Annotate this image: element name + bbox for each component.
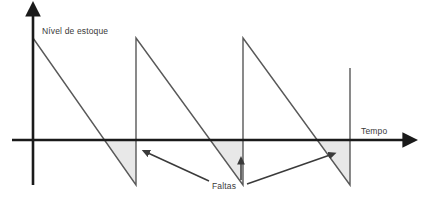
x-axis-label: Tempo <box>361 126 387 136</box>
arrow-to-shortage-3 <box>247 155 330 184</box>
y-axis-label: Nível de estoque <box>42 26 108 36</box>
inventory-sawtooth-diagram: Nível de estoque Tempo Faltas <box>0 0 426 200</box>
shortage-label: Faltas <box>212 181 236 191</box>
sawtooth-path <box>33 38 350 185</box>
arrow-to-shortage-1 <box>148 153 209 181</box>
chart-canvas: Nível de estoque Tempo Faltas <box>0 0 426 200</box>
inventory-level-curve <box>33 38 350 185</box>
